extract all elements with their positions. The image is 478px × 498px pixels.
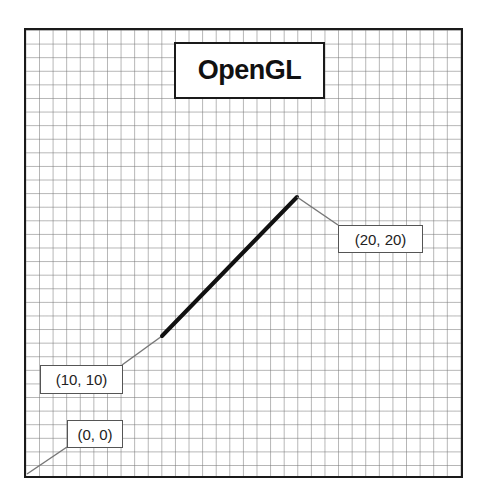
title-box: OpenGL xyxy=(174,42,325,99)
leader-end xyxy=(297,197,338,225)
label-end-point: (20, 20) xyxy=(338,225,423,253)
label-start-point: (10, 10) xyxy=(40,365,123,394)
diagram-canvas: OpenGL (0, 0) (10, 10) (20, 20) xyxy=(0,0,478,498)
line-segment xyxy=(162,197,297,336)
label-end-text: (20, 20) xyxy=(355,231,407,248)
label-start-text: (10, 10) xyxy=(56,371,108,388)
leader-origin xyxy=(27,447,67,474)
title-text: OpenGL xyxy=(198,55,302,86)
label-origin-text: (0, 0) xyxy=(77,426,112,443)
leader-start xyxy=(122,336,162,365)
label-origin: (0, 0) xyxy=(67,420,123,448)
